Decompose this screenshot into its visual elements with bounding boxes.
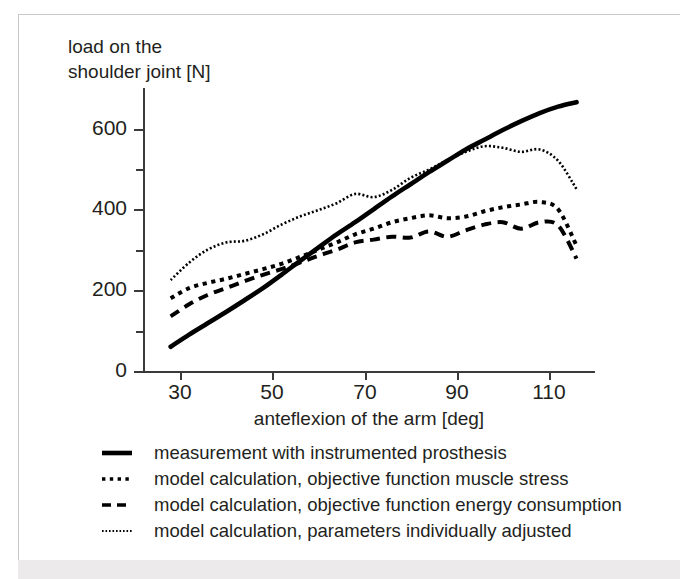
y-tick-label-600: 600 [57, 116, 127, 140]
figure-container: load on the shoulder joint [N] 0 200 400… [0, 0, 698, 579]
legend-item-measurement[interactable]: measurement with instrumented prosthesis [100, 440, 660, 466]
y-tick-200 [134, 290, 143, 292]
x-tick-90 [457, 372, 459, 380]
y-tick-label-200: 200 [57, 277, 127, 301]
chart-legend: measurement with instrumented prosthesis… [100, 440, 660, 544]
fine-dotted-line-key [100, 521, 144, 541]
x-tick-label-70: 70 [335, 380, 395, 404]
chart-plot-area [143, 88, 595, 371]
x-tick-110 [549, 372, 551, 380]
y-tick-100 [136, 331, 143, 333]
legend-label-energy-consumption: model calculation, objective function en… [154, 494, 622, 516]
series-line-0 [171, 102, 577, 347]
solid-line-key [100, 443, 144, 463]
series-layer [171, 102, 577, 347]
legend-label-muscle-stress: model calculation, objective function mu… [154, 468, 568, 490]
x-axis-title: anteflexion of the arm [deg] [143, 408, 595, 430]
x-tick-label-90: 90 [427, 380, 487, 404]
x-tick-label-50: 50 [242, 380, 302, 404]
legend-item-energy-consumption[interactable]: model calculation, objective function en… [100, 492, 660, 518]
figure-bottom-band [18, 560, 680, 579]
x-axis-line [143, 371, 595, 373]
dotted-line-key [100, 469, 144, 489]
figure-top-rule [18, 14, 680, 15]
y-axis-title: load on the shoulder joint [N] [68, 34, 211, 84]
y-tick-0 [134, 371, 143, 373]
dashed-line-key [100, 495, 144, 515]
figure-left-rule [18, 14, 19, 560]
legend-label-measurement: measurement with instrumented prosthesis [154, 442, 507, 464]
y-tick-500 [136, 169, 143, 171]
x-tick-70 [365, 372, 367, 380]
y-tick-600 [134, 129, 143, 131]
legend-item-muscle-stress[interactable]: model calculation, objective function mu… [100, 466, 660, 492]
legend-item-individually-adjusted[interactable]: model calculation, parameters individual… [100, 518, 660, 544]
y-tick-400 [134, 209, 143, 211]
y-tick-300 [136, 250, 143, 252]
x-tick-label-30: 30 [150, 380, 210, 404]
y-tick-label-400: 400 [57, 196, 127, 220]
series-line-2 [171, 221, 577, 316]
x-tick-50 [272, 372, 274, 380]
legend-label-individually-adjusted: model calculation, parameters individual… [154, 520, 572, 542]
series-line-3 [171, 146, 577, 280]
x-tick-label-110: 110 [519, 380, 579, 404]
y-tick-label-0: 0 [57, 358, 127, 382]
x-tick-30 [180, 372, 182, 380]
series-line-1 [171, 202, 577, 298]
